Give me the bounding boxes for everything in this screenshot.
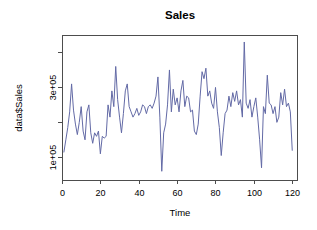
plot-background [0,0,317,230]
x-tick-label: 100 [247,188,262,198]
x-tick-label: 0 [60,188,65,198]
x-tick-label: 80 [210,188,220,198]
x-tick-label: 120 [285,188,300,198]
y-tick-label: 1e+05 [48,145,58,170]
y-axis-label: data$Sales [13,84,24,132]
x-tick-label: 40 [134,188,144,198]
y-tick-label: 3e+05 [48,75,58,100]
chart-title: Sales [165,9,195,21]
x-axis-label: Time [170,207,191,218]
x-tick-label: 20 [95,188,105,198]
x-tick-label: 60 [172,188,182,198]
chart-figure: Sales 1e+053e+05 020406080100120 Time da… [0,0,317,230]
sales-time-series-plot: Sales 1e+053e+05 020406080100120 Time da… [0,0,317,230]
